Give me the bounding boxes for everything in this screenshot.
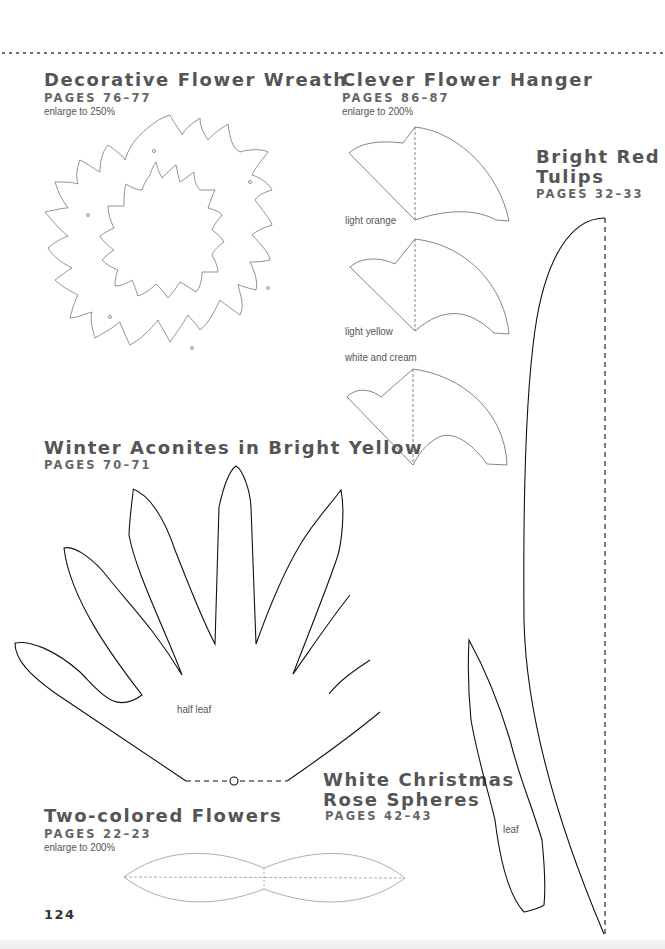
tulip-leaf-icon (468, 640, 544, 912)
page-bottom-edge (0, 940, 665, 949)
aconite-half-leaf-icon (15, 466, 380, 785)
template-artwork (0, 0, 665, 949)
hanger-piece-light-orange-icon (349, 127, 509, 221)
two-colored-petal-icon (124, 853, 405, 902)
hanger-piece-light-yellow-icon (350, 239, 509, 334)
wreath-template-icon (45, 115, 272, 350)
hanger-piece-white-cream-icon (347, 369, 507, 465)
tulip-stem-icon (524, 218, 605, 934)
